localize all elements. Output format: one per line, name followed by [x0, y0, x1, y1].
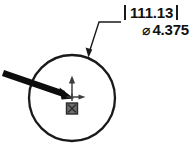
- diameter-symbol-icon: ⌀: [142, 23, 150, 37]
- leader-arrowhead-icon: [86, 48, 93, 58]
- primary-dimension-value: 111.13: [126, 5, 176, 20]
- triad-y-axis-arrow-icon: [69, 76, 75, 84]
- triad-x-axis-arrow-icon: [79, 94, 86, 99]
- leader-line: [89, 22, 121, 53]
- primary-dimension-row[interactable]: 111.13: [124, 4, 192, 21]
- secondary-dimension-value: 4.375: [152, 22, 189, 37]
- secondary-dimension-row[interactable]: ⌀ 4.375: [124, 21, 192, 38]
- dimension-bracket-right-icon: [176, 5, 178, 20]
- drawing-canvas: 111.13 ⌀ 4.375: [0, 0, 196, 155]
- pointer-arrow-shaft: [3, 73, 64, 94]
- dimension-text-block[interactable]: 111.13 ⌀ 4.375: [124, 4, 192, 38]
